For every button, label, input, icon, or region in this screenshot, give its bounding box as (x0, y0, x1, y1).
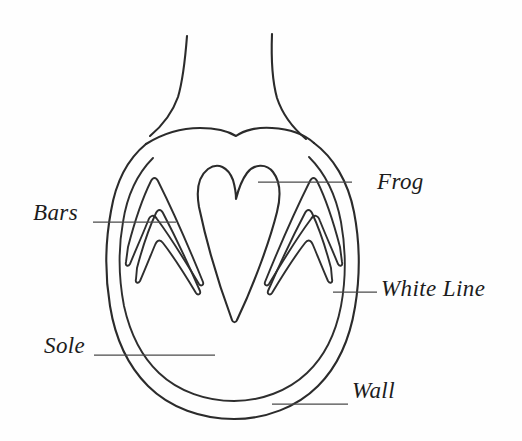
white-line-inner-outline (120, 157, 345, 401)
heel-bulb-outline (146, 128, 314, 144)
pastern-right-outline (272, 34, 306, 139)
hoof-wall-outer-outline (106, 143, 358, 419)
label-wall: Wall (352, 379, 395, 402)
frog-outline (198, 166, 279, 323)
hoof-illustration (0, 0, 522, 441)
hoof-diagram: Frog Bars White Line Sole Wall (0, 0, 522, 441)
label-white-line: White Line (381, 277, 485, 300)
label-frog: Frog (377, 170, 424, 193)
label-sole: Sole (44, 334, 85, 357)
pastern-left-outline (150, 36, 187, 136)
label-bars: Bars (33, 201, 78, 224)
